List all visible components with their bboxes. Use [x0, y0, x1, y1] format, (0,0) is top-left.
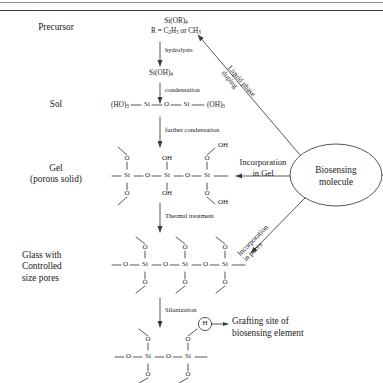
gel-atom-o-si1-top: O [124, 155, 129, 163]
sol-right-base: (OH) [207, 101, 222, 109]
sol-atom-right-hydroxyls: (OH)3 [207, 101, 225, 110]
sol-atom-left-hydroxyls: (HO)3 [111, 101, 129, 110]
gel-atom-o-bridge-1: O [145, 172, 150, 180]
glass-atom-o-si2-top: O [182, 244, 187, 252]
sol-atom-o-bridge: O [164, 101, 169, 109]
grafting-site-line2: biosensing element [232, 328, 304, 340]
sil-atom-o-si2-bottom: O [185, 371, 190, 379]
glass-atom-o-bridge-2: O [203, 261, 208, 269]
biosensing-molecule-label: Biosensing molecule [315, 165, 356, 188]
sil-atom-o-si2-top: O [185, 336, 190, 344]
gel-atom-si-2: Si [164, 172, 170, 180]
glass-atom-o-si1-bottom: O [142, 279, 147, 287]
gel-atom-oh-terminal-bottom: OH [218, 199, 228, 207]
row-label-glass-line2: Controlled [22, 261, 62, 272]
glass-atom-o-si3-bottom: O [222, 279, 227, 287]
biosensing-label-line1: Biosensing [315, 165, 356, 177]
r-group-sub3: 3 [198, 29, 201, 35]
silicic-acid-base: Si(OH) [149, 69, 170, 77]
sil-atom-si-1: Si [145, 353, 151, 361]
sol-atom-si-2: Si [184, 101, 190, 109]
route-gel-line1: Incorporation [240, 157, 287, 168]
route-incorporation-in-gel-label: Incorporation in Gel [240, 157, 287, 178]
sol-right-sub: 3 [222, 103, 225, 109]
glass-si2-down-diag [176, 286, 185, 293]
gel-atom-o-si3-top: O [204, 155, 209, 163]
row-label-glass-line1: Glass with [22, 250, 62, 261]
row-label-glass: Glass with Controlled size pores [22, 250, 62, 284]
glass-si3-down-diag [216, 286, 225, 293]
glass-atom-o-left-bridge: O [123, 261, 128, 269]
step-label-hydrolysis: hydrolysis [165, 46, 192, 53]
sol-atom-si-1: Si [144, 101, 150, 109]
formula-precursor-base-sub: 4 [185, 19, 188, 25]
formula-precursor-r-group: R = C2H5 or CH3 [151, 27, 201, 36]
grafting-site-line1: Grafting site of [232, 316, 304, 328]
r-group-post: or CH [179, 27, 199, 35]
glass-atom-si-2: Si [182, 261, 188, 269]
grafting-site-text: Grafting site of biosensing element [232, 316, 304, 339]
gel-si3-down-diag [207, 197, 215, 204]
step-label-silanization: Silanization [165, 306, 197, 313]
hydrogen-label: H [202, 320, 207, 328]
step-label-condensation: condensation [165, 86, 200, 93]
route-gel-line2: in Gel [240, 168, 287, 179]
sil-atom-o-si1-top: O [145, 336, 150, 344]
row-label-precursor: Precursor [38, 22, 74, 32]
sil-atom-o-si1-bottom: O [145, 371, 150, 379]
sil-atom-o-bridge-1: O [166, 353, 171, 361]
formula-precursor-base: Si(OR) [164, 17, 185, 25]
sil-atom-o-left-bridge: O [126, 353, 131, 361]
glass-atom-o-si1-top: O [142, 244, 147, 252]
silicic-acid-sub: 4 [170, 71, 173, 77]
gel-si1-down-diag [118, 197, 127, 205]
sol-left-base: (HO) [111, 101, 126, 109]
row-label-gel-line2: (porous solid) [30, 174, 82, 185]
gel-atom-oh-si2-top: OH [162, 155, 172, 163]
sil-atom-si-2: Si [185, 353, 191, 361]
step-label-further-condensation: further condensation [165, 126, 219, 133]
sol-left-sub: 3 [126, 103, 129, 109]
glass-atom-si-1: Si [142, 261, 148, 269]
formula-precursor-tetraalkoxysilane: Si(OR)4 [164, 17, 187, 26]
gel-atom-o-bridge-2: O [185, 172, 190, 180]
row-label-gel: Gel (porous solid) [30, 163, 82, 186]
gel-atom-o-si3-bottom: O [204, 190, 209, 198]
row-label-gel-line1: Gel [30, 163, 82, 174]
gel-atom-si-3: Si [204, 172, 210, 180]
gel-atom-oh-terminal-top: OH [218, 142, 228, 150]
row-label-sol: Sol [50, 99, 62, 109]
biosensing-label-line2: molecule [315, 177, 356, 189]
glass-si1-down-diag [136, 286, 145, 293]
figure-canvas: Precursor Sol Gel (porous solid) Glass w… [0, 0, 383, 383]
formula-silicic-acid: Si(OH)4 [149, 69, 173, 78]
gel-atom-o-si1-bottom: O [124, 190, 129, 198]
row-label-glass-line3: size pores [22, 273, 62, 284]
step-label-thermal-treatment: Thermal treatment [165, 212, 214, 219]
glass-atom-si-3: Si [222, 261, 228, 269]
glass-atom-o-bridge-1: O [163, 261, 168, 269]
gel-atom-oh-si2-bottom: OH [162, 190, 172, 198]
diagram-vector-layer [0, 0, 383, 383]
glass-atom-o-si3-top: O [222, 244, 227, 252]
glass-atom-o-si2-bottom: O [182, 279, 187, 287]
r-group-pre: R = C [151, 27, 168, 35]
gel-atom-si-1: Si [124, 172, 130, 180]
